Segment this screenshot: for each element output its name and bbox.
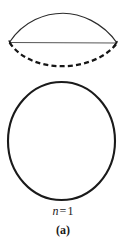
resonator-circle: [8, 82, 115, 200]
figure-panel: n=1 (a): [0, 0, 126, 246]
left-vertex-cusp: [9, 41, 11, 46]
mode-symbol: n: [53, 204, 59, 218]
mode-number-label: n=1: [0, 205, 126, 217]
mode-value: 1: [67, 204, 73, 218]
lower-dashed-arc: [10, 43, 117, 67]
resonator-circle-group: [8, 82, 115, 200]
upper-solid-arc: [10, 13, 117, 43]
panel-label: (a): [0, 224, 126, 236]
chord-axis-line: [10, 42, 117, 43]
standing-wave-lens-group: [9, 13, 117, 66]
